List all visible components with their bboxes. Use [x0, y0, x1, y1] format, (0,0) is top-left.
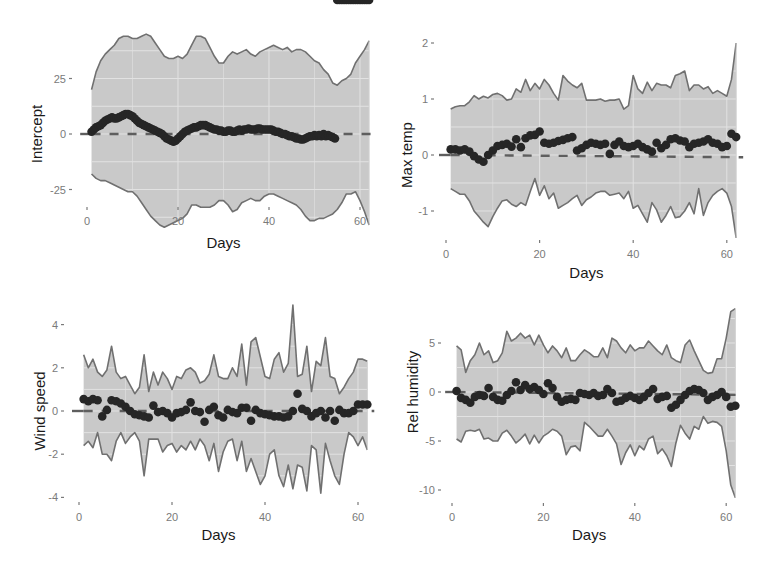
data-point: [247, 416, 256, 425]
x-tick-label: 20: [537, 511, 549, 523]
data-point: [293, 389, 302, 398]
y-tick-label: 2: [422, 37, 428, 49]
x-tick-label: 20: [172, 215, 184, 227]
data-point: [548, 384, 557, 393]
data-point: [242, 403, 251, 412]
x-tick-label: 60: [721, 248, 733, 260]
panel-max-temp: 210-10204060DaysMax temp: [398, 30, 743, 281]
data-point: [601, 140, 610, 149]
data-point: [662, 392, 671, 401]
data-point: [210, 402, 219, 411]
credible-band: [84, 305, 368, 493]
x-axis-title: Days: [201, 526, 235, 543]
x-axis-title: Days: [206, 234, 240, 251]
x-axis-title: Days: [569, 264, 603, 281]
data-point: [648, 147, 657, 156]
data-point: [517, 143, 526, 152]
data-point: [512, 378, 521, 387]
data-point: [103, 406, 112, 415]
data-point: [480, 392, 489, 401]
data-point: [512, 135, 521, 144]
x-axis-title: Days: [572, 526, 606, 543]
y-tick-label: 2: [52, 362, 58, 374]
data-point: [732, 133, 741, 142]
data-point: [331, 134, 340, 143]
data-point: [186, 398, 195, 407]
y-axis-title: Rel humidity: [404, 350, 421, 433]
x-tick-label: 40: [629, 511, 641, 523]
data-point: [363, 400, 372, 409]
data-point: [200, 418, 209, 427]
y-tick-label: 0: [422, 149, 428, 161]
panel-intercept: 250-250204060DaysIntercept: [28, 0, 376, 251]
figure: 250-250204060DaysIntercept 210-10204060D…: [0, 0, 774, 574]
data-point: [144, 413, 153, 422]
x-tick-label: 0: [84, 215, 90, 227]
data-point: [608, 389, 617, 398]
data-point: [330, 416, 339, 425]
x-tick-label: 40: [259, 511, 271, 523]
y-tick-label: 1: [422, 93, 428, 105]
y-axis-title: Max temp: [398, 122, 415, 188]
data-point: [507, 142, 516, 151]
data-point: [649, 385, 658, 394]
panel-rel-humidity: 50-5-100204060DaysRel humidity: [404, 300, 742, 543]
x-tick-label: 20: [533, 248, 545, 260]
data-point: [568, 133, 577, 142]
x-tick-label: 60: [720, 511, 732, 523]
x-tick-label: 20: [166, 511, 178, 523]
x-tick-label: 40: [263, 215, 275, 227]
data-point: [539, 390, 548, 399]
y-axis-title: Wind speed: [31, 371, 48, 450]
y-tick-label: 0: [60, 128, 66, 140]
x-tick-label: 40: [627, 248, 639, 260]
y-tick-label: -5: [425, 435, 435, 447]
data-point: [507, 387, 516, 396]
panel-wind-speed: 420-2-40204060DaysWind speed: [31, 300, 374, 543]
y-axis-title: Intercept: [28, 104, 45, 163]
data-point: [484, 384, 493, 393]
data-point: [93, 396, 102, 405]
x-tick-label: 0: [449, 511, 455, 523]
data-point: [535, 127, 544, 136]
y-tick-label: 4: [52, 319, 58, 331]
x-tick-label: 0: [443, 248, 449, 260]
data-point: [326, 407, 335, 416]
y-tick-label: 5: [429, 337, 435, 349]
data-point: [723, 142, 732, 151]
data-point: [606, 150, 615, 159]
data-point: [289, 407, 298, 416]
y-tick-label: -2: [48, 448, 58, 460]
x-tick-label: 60: [354, 215, 366, 227]
data-point: [731, 401, 740, 410]
y-tick-label: -4: [48, 491, 58, 503]
x-tick-label: 60: [352, 511, 364, 523]
y-tick-label: -1: [418, 205, 428, 217]
data-point: [219, 413, 228, 422]
y-tick-label: 25: [54, 73, 66, 85]
data-point: [196, 408, 205, 417]
data-point: [182, 406, 191, 415]
y-tick-label: -10: [419, 484, 435, 496]
y-tick-label: 0: [52, 405, 58, 417]
data-point: [722, 393, 731, 402]
y-tick-label: -25: [50, 184, 66, 196]
y-tick-label: 0: [429, 386, 435, 398]
x-tick-label: 0: [76, 511, 82, 523]
